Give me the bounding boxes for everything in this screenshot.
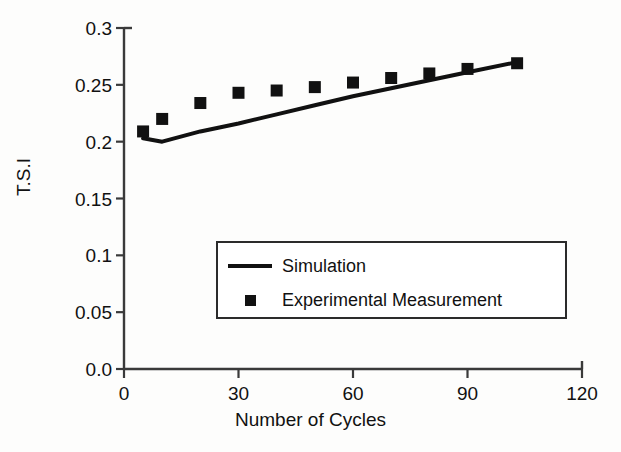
data-point-marker: [271, 85, 283, 97]
data-point-marker: [194, 97, 206, 109]
y-axis-title: T.S.I: [14, 158, 33, 196]
plot-area: [0, 0, 621, 452]
experimental-series-markers: [137, 57, 523, 137]
legend-label-experimental: Experimental Measurement: [282, 290, 502, 311]
legend: Simulation Experimental Measurement: [216, 241, 567, 319]
chart-figure: 0.00.050.10.150.20.250.3 0306090120 T.S.…: [0, 0, 621, 452]
data-point-marker: [385, 72, 397, 84]
x-tick-label: 90: [457, 384, 478, 403]
data-point-marker: [462, 63, 474, 75]
data-point-marker: [233, 87, 245, 99]
x-axis-title: Number of Cycles: [0, 410, 621, 429]
legend-item-simulation: Simulation: [218, 249, 565, 283]
x-tick-label: 0: [119, 384, 130, 403]
line-swatch-icon: [218, 264, 282, 268]
y-tick-label: 0.25: [38, 75, 112, 94]
data-point-marker: [511, 57, 523, 69]
y-tick-label: 0.1: [38, 246, 112, 265]
x-tick-label: 60: [342, 384, 363, 403]
y-tick-label: 0.3: [38, 19, 112, 38]
data-point-marker: [309, 81, 321, 93]
data-point-marker: [137, 125, 149, 137]
legend-label-simulation: Simulation: [282, 256, 366, 277]
square-swatch-icon: [218, 295, 282, 306]
data-point-marker: [423, 67, 435, 79]
data-point-marker: [347, 77, 359, 89]
data-point-marker: [156, 113, 168, 125]
y-tick-label: 0.15: [38, 189, 112, 208]
y-tick-label: 0.0: [38, 360, 112, 379]
legend-item-experimental: Experimental Measurement: [218, 283, 565, 317]
y-tick-label: 0.2: [38, 132, 112, 151]
y-tick-label: 0.05: [38, 303, 112, 322]
x-axis-ticks: [124, 369, 582, 378]
x-tick-label: 30: [228, 384, 249, 403]
x-tick-label: 120: [566, 384, 598, 403]
